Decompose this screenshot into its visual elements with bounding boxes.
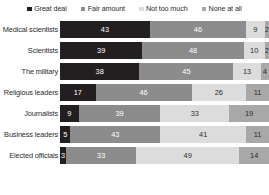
- bar-segment[interactable]: 46: [96, 84, 192, 101]
- stacked-bar: 5434111: [60, 126, 269, 143]
- row-label: Scientists: [0, 47, 60, 54]
- bar-segment[interactable]: 5: [60, 126, 70, 143]
- stacked-bar: 3845134: [60, 63, 269, 80]
- stacked-bar: 9393319: [60, 105, 269, 122]
- row-label: The military: [0, 68, 60, 75]
- bar-segment[interactable]: 14: [239, 147, 269, 164]
- bar-segment[interactable]: 26: [192, 84, 246, 101]
- chart-legend: Great dealFair amountNot too muchNone at…: [0, 2, 269, 16]
- bar-segment[interactable]: 39: [60, 42, 142, 59]
- legend-swatch-icon: [81, 7, 86, 12]
- bar-segment[interactable]: 33: [66, 147, 136, 164]
- chart-rows: Medical scientists434692Scientists394810…: [0, 21, 269, 164]
- bar-segment[interactable]: 13: [233, 63, 260, 80]
- stacked-bar: 3948102: [60, 42, 269, 59]
- bar-segment[interactable]: 2: [265, 21, 269, 38]
- legend-item-label: Not too much: [146, 5, 188, 12]
- chart-row: Religious leaders17462611: [0, 84, 269, 101]
- bar-segment[interactable]: 43: [70, 126, 160, 143]
- row-label: Elected officials: [0, 152, 60, 159]
- bar-segment[interactable]: 10: [244, 42, 265, 59]
- chart-row: Elected officials3334914: [0, 147, 269, 164]
- bar-segment[interactable]: 49: [136, 147, 239, 164]
- bar-segment[interactable]: 39: [79, 105, 161, 122]
- bar-segment[interactable]: 11: [246, 126, 269, 143]
- stacked-bar: 17462611: [60, 84, 269, 101]
- bar-segment[interactable]: 33: [160, 105, 229, 122]
- row-label: Medical scientists: [0, 26, 60, 33]
- stacked-bar: 434692: [60, 21, 269, 38]
- legend-item[interactable]: Not too much: [139, 5, 188, 12]
- legend-item[interactable]: Fair amount: [81, 5, 125, 12]
- legend-item[interactable]: None at all: [202, 5, 242, 12]
- bar-segment[interactable]: 2: [265, 42, 269, 59]
- bar-segment[interactable]: 17: [60, 84, 96, 101]
- bar-segment[interactable]: 9: [246, 21, 265, 38]
- bar-segment[interactable]: 48: [142, 42, 243, 59]
- bar-segment[interactable]: 45: [139, 63, 233, 80]
- legend-item-label: Fair amount: [88, 5, 125, 12]
- bar-segment[interactable]: 9: [60, 105, 79, 122]
- chart-row: The military3845134: [0, 63, 269, 80]
- legend-item-label: Great deal: [34, 5, 67, 12]
- bar-segment[interactable]: 46: [150, 21, 246, 38]
- bar-segment[interactable]: 43: [60, 21, 150, 38]
- bar-segment[interactable]: 38: [60, 63, 139, 80]
- chart-row: Scientists3948102: [0, 42, 269, 59]
- stacked-bar: 3334914: [60, 147, 269, 164]
- legend-item[interactable]: Great deal: [27, 5, 67, 12]
- chart-row: Business leaders5434111: [0, 126, 269, 143]
- bar-segment[interactable]: 4: [261, 63, 269, 80]
- chart-row: Journalists9393319: [0, 105, 269, 122]
- row-label: Religious leaders: [0, 89, 60, 96]
- row-label: Business leaders: [0, 131, 60, 138]
- bar-segment[interactable]: 11: [246, 84, 269, 101]
- legend-item-label: None at all: [209, 5, 242, 12]
- row-label: Journalists: [0, 110, 60, 117]
- legend-swatch-icon: [202, 7, 207, 12]
- legend-swatch-icon: [27, 7, 32, 12]
- chart-row: Medical scientists434692: [0, 21, 269, 38]
- bar-segment[interactable]: 19: [229, 105, 269, 122]
- bar-segment[interactable]: 41: [160, 126, 246, 143]
- stacked-bar-chart: Great dealFair amountNot too muchNone at…: [0, 0, 269, 195]
- legend-swatch-icon: [139, 7, 144, 12]
